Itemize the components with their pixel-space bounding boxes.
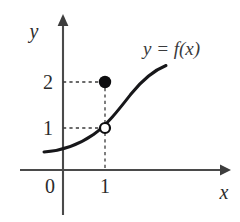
filled-point-marker: [99, 76, 111, 88]
open-point-marker: [100, 123, 110, 133]
y-axis-arrowhead: [58, 14, 69, 26]
y-tick-label-2: 2: [43, 71, 53, 93]
x-axis-arrowhead: [220, 165, 231, 176]
y-axis-label: y: [28, 20, 39, 43]
curve-label: y = f(x): [141, 38, 200, 60]
graph-canvas: y x 0 1 1 2 y = f(x): [0, 0, 240, 222]
x-tick-label-1: 1: [100, 175, 110, 197]
x-axis-label: x: [219, 181, 229, 203]
y-tick-label-1: 1: [43, 117, 53, 139]
graph-figure: y x 0 1 1 2 y = f(x): [0, 0, 240, 222]
origin-tick-label: 0: [45, 175, 55, 197]
